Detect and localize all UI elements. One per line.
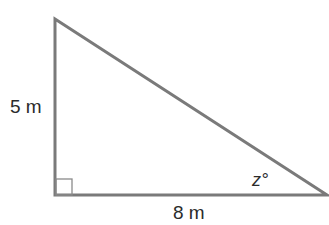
horizontal-side-label: 8 m xyxy=(173,202,205,223)
triangle-shape xyxy=(55,19,327,195)
angle-label: z° xyxy=(251,170,268,190)
vertical-side-label: 5 m xyxy=(10,96,42,117)
right-angle-marker xyxy=(56,179,72,195)
right-triangle-diagram: 5 m 8 m z° xyxy=(0,0,329,225)
